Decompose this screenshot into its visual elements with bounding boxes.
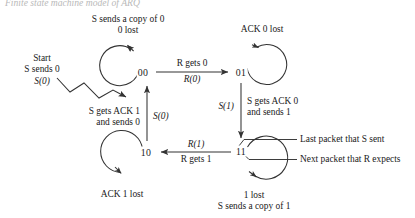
self-loop-00	[100, 45, 140, 86]
transition-01-to-11-right-label-line1: S gets ACK 0	[247, 96, 298, 107]
self-loop-10-caption: ACK 1 lost	[101, 189, 144, 200]
state-node-00[interactable]: 00	[137, 67, 150, 78]
callout-leader-lines	[239, 140, 298, 160]
transition-11-to-10-top-label: R(1)	[188, 139, 205, 150]
self-loop-10	[101, 131, 143, 174]
figure-canvas: Finite state machine model of ARQ	[0, 0, 415, 218]
start-label-signal: S(0)	[34, 76, 50, 87]
start-label-line2: S sends 0	[24, 64, 59, 75]
transition-01-to-11-right-label-line2: and sends 1	[247, 107, 291, 118]
transition-01-to-11-left-label: S(1)	[218, 101, 234, 112]
self-loop-00-caption-line2: 0 lost	[118, 25, 139, 36]
start-label-line1: Start	[33, 53, 51, 64]
self-loop-00-caption-line1: S sends a copy of 0	[92, 14, 165, 25]
self-loop-11	[248, 136, 288, 179]
diagram-vector-layer	[0, 0, 415, 218]
transition-00-to-01-bottom-label: R(0)	[184, 74, 201, 85]
self-loop-11-caption-line1: 1 lost	[244, 190, 265, 201]
state-node-10[interactable]: 10	[140, 147, 153, 158]
self-loop-11-caption-line2: S sends a copy of 1	[218, 201, 291, 212]
state-node-11[interactable]: 11	[235, 146, 247, 157]
state-node-01[interactable]: 01	[235, 67, 248, 78]
self-loop-01-caption: ACK 0 lost	[241, 24, 284, 35]
transition-11-to-10-bottom-label: R gets 1	[181, 154, 212, 165]
transition-10-to-00-left-label-line2: and sends 0	[96, 117, 140, 128]
transition-10-to-00-left-label-line1: S gets ACK 1	[89, 106, 140, 117]
start-arrow	[57, 78, 126, 98]
transition-00-to-01-top-label: R gets 0	[177, 58, 208, 69]
self-loop-01	[247, 44, 287, 84]
callout-last-packet-label: Last packet that S sent	[300, 134, 384, 145]
transition-10-to-00-right-label: S(0)	[153, 111, 169, 122]
callout-next-packet-label: Next packet that R expects	[300, 154, 400, 165]
